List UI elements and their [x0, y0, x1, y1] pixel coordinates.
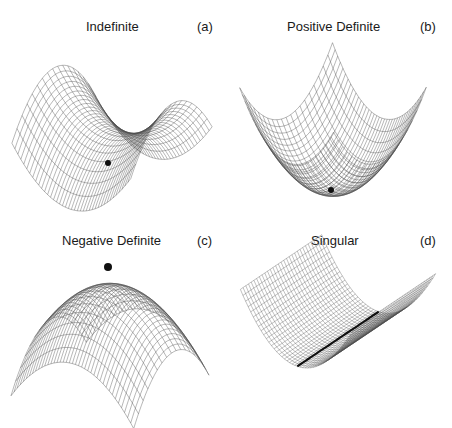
dome-surface-plot: [0, 214, 226, 428]
panel-negative-definite: Negative Definite (c): [0, 214, 226, 428]
saddle-surface-plot: [0, 0, 226, 214]
panel-positive-definite: Positive Definite (b): [226, 0, 452, 214]
bowl-surface-plot: [226, 0, 452, 214]
critical-point-marker: [105, 160, 111, 166]
panel-singular: Singular (d): [226, 214, 452, 428]
critical-point-marker: [328, 187, 334, 193]
trough-surface-plot: [226, 214, 452, 428]
critical-point-marker: [104, 263, 112, 271]
panel-indefinite: Indefinite (a): [0, 0, 226, 214]
